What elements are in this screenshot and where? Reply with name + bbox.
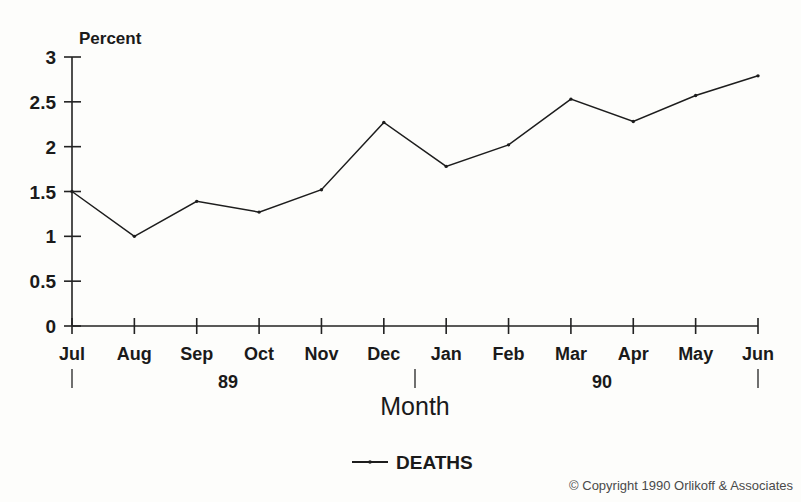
- x-tick-label: Sep: [180, 344, 213, 364]
- x-tick-label: May: [678, 344, 713, 364]
- data-point: [632, 120, 635, 123]
- data-point: [507, 143, 510, 146]
- x-tick-label: Oct: [244, 344, 274, 364]
- x-tick-label: Mar: [555, 344, 587, 364]
- legend-dot-icon: [368, 460, 372, 464]
- x-tick-label: Apr: [618, 344, 649, 364]
- line-chart: Percent 00.511.522.53 JulAugSepOctNovDec…: [0, 0, 801, 502]
- x-tick-label: Dec: [367, 344, 400, 364]
- data-point: [694, 94, 697, 97]
- data-point: [382, 121, 385, 124]
- data-point: [70, 190, 73, 193]
- y-tick-label: 1.5: [30, 182, 57, 203]
- x-axis-title: Month: [380, 392, 449, 420]
- data-point: [257, 210, 260, 213]
- data-point: [195, 200, 198, 203]
- data-point: [756, 74, 759, 77]
- x-tick-label: Jun: [742, 344, 774, 364]
- x-axis-ticks: JulAugSepOctNovDecJanFebMarAprMayJun: [59, 318, 774, 364]
- chart-legend: DEATHS: [352, 452, 473, 473]
- data-point: [320, 188, 323, 191]
- year-label: 90: [592, 372, 612, 392]
- y-tick-label: 2: [45, 137, 56, 158]
- year-separators: [72, 369, 758, 388]
- x-tick-label: Feb: [493, 344, 525, 364]
- series-line-deaths: [72, 76, 758, 237]
- y-tick-label: 0: [45, 316, 56, 337]
- x-tick-label: Jul: [59, 344, 85, 364]
- copyright-notice: © Copyright 1990 Orlikoff & Associates: [569, 478, 793, 493]
- y-tick-label: 1: [45, 226, 56, 247]
- year-label: 89: [218, 372, 238, 392]
- x-tick-label: Jan: [431, 344, 462, 364]
- chart-page: Percent 00.511.522.53 JulAugSepOctNovDec…: [0, 0, 801, 502]
- y-tick-label: 3: [45, 47, 56, 68]
- x-tick-label: Nov: [304, 344, 338, 364]
- series-deaths: [70, 74, 759, 238]
- y-axis-title: Percent: [79, 29, 142, 48]
- data-point: [569, 97, 572, 100]
- y-tick-label: 0.5: [30, 271, 57, 292]
- y-tick-label: 2.5: [30, 92, 57, 113]
- data-point: [133, 235, 136, 238]
- x-tick-label: Aug: [117, 344, 152, 364]
- legend-label-deaths: DEATHS: [396, 452, 473, 473]
- data-point: [444, 165, 447, 168]
